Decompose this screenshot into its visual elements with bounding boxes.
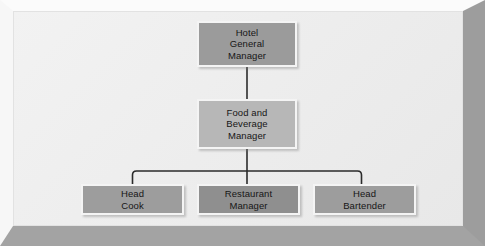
node-label: Food and Beverage Manager bbox=[226, 107, 267, 142]
node-food-and-beverage-manager[interactable]: Food and Beverage Manager bbox=[197, 99, 297, 149]
node-restaurant-manager[interactable]: Restaurant Manager bbox=[197, 184, 300, 215]
node-label: Head Cook bbox=[121, 188, 144, 211]
node-head-bartender[interactable]: Head Bartender bbox=[313, 184, 416, 215]
node-head-cook[interactable]: Head Cook bbox=[81, 184, 184, 215]
chart-canvas: Hotel General Manager Food and Beverage … bbox=[13, 11, 463, 226]
org-chart-image: Hotel General Manager Food and Beverage … bbox=[0, 0, 485, 246]
node-label: Hotel General Manager bbox=[228, 27, 266, 62]
node-hotel-general-manager[interactable]: Hotel General Manager bbox=[197, 21, 297, 67]
node-label: Restaurant Manager bbox=[225, 188, 272, 211]
node-label: Head Bartender bbox=[343, 188, 386, 211]
